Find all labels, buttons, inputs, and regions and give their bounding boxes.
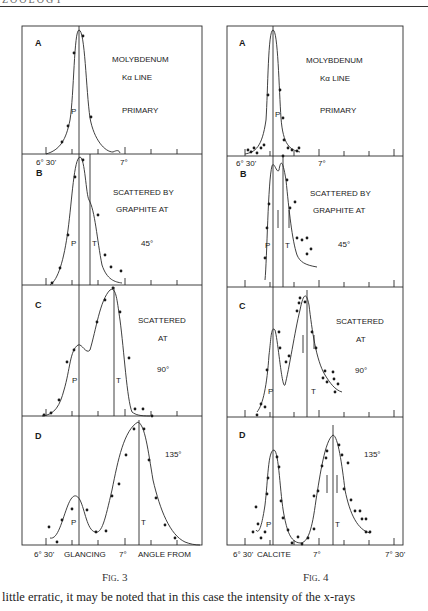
svg-text:7°: 7° xyxy=(120,158,128,167)
svg-text:45°: 45° xyxy=(141,239,153,248)
svg-text:T: T xyxy=(311,387,316,396)
svg-text:T: T xyxy=(116,376,121,385)
svg-text:AT: AT xyxy=(158,334,168,343)
svg-text:SCATTERED: SCATTERED xyxy=(138,316,186,325)
svg-text:6° 30': 6° 30' xyxy=(233,550,254,559)
svg-text:B: B xyxy=(36,168,43,178)
svg-text:ANGLE FROM: ANGLE FROM xyxy=(138,550,191,559)
svg-text:A: A xyxy=(35,38,42,48)
svg-text:T: T xyxy=(285,241,290,250)
svg-text:6° 30': 6° 30' xyxy=(36,158,57,167)
svg-text:MOLYBDENUM: MOLYBDENUM xyxy=(112,55,169,64)
fig3-caption: Fig. 3 xyxy=(102,571,128,583)
svg-text:7°: 7° xyxy=(119,550,127,559)
svg-text:GRAPHITE AT: GRAPHITE AT xyxy=(313,206,365,215)
svg-text:SCATTERED BY: SCATTERED BY xyxy=(310,189,371,198)
svg-text:135°: 135° xyxy=(364,450,381,459)
svg-text:P: P xyxy=(265,241,270,250)
svg-text:CALCITE: CALCITE xyxy=(257,550,291,559)
svg-text:Kα LINE: Kα LINE xyxy=(122,73,152,82)
fig3-curve-a xyxy=(46,30,120,154)
svg-text:45°: 45° xyxy=(338,240,350,249)
svg-text:PRIMARY: PRIMARY xyxy=(122,106,159,115)
fig4-caption: Fig. 4 xyxy=(303,571,329,583)
svg-text:C: C xyxy=(239,301,246,311)
svg-text:7°: 7° xyxy=(313,550,321,559)
svg-text:C: C xyxy=(35,300,42,310)
svg-text:GRAPHITE AT: GRAPHITE AT xyxy=(116,205,168,214)
svg-text:Kα LINE: Kα LINE xyxy=(320,74,350,83)
body-paragraph: little erratic, it may be noted that in … xyxy=(2,590,355,605)
svg-text:P: P xyxy=(275,110,280,119)
svg-text:7°: 7° xyxy=(318,159,326,168)
svg-text:GLANCING: GLANCING xyxy=(64,550,106,559)
svg-text:T: T xyxy=(335,520,340,529)
svg-text:6° 30': 6° 30' xyxy=(34,550,55,559)
svg-text:P: P xyxy=(268,387,273,396)
svg-text:SCATTERED BY: SCATTERED BY xyxy=(113,188,174,197)
figures-canvas: A MOLYBDENUM Kα LINE PRIMARY P 6° 30' 7°… xyxy=(0,0,428,611)
fig3-labels: A MOLYBDENUM Kα LINE PRIMARY P 6° 30' 7°… xyxy=(34,38,191,559)
svg-text:P: P xyxy=(266,520,271,529)
svg-text:T: T xyxy=(92,239,97,248)
svg-text:AT: AT xyxy=(356,335,366,344)
svg-text:P: P xyxy=(71,239,76,248)
svg-text:P: P xyxy=(72,376,77,385)
svg-text:MOLYBDENUM: MOLYBDENUM xyxy=(306,56,363,65)
svg-text:135°: 135° xyxy=(165,450,182,459)
svg-text:P: P xyxy=(71,518,76,527)
fig4-curve-a xyxy=(245,30,300,154)
svg-text:6° 30': 6° 30' xyxy=(236,159,257,168)
svg-text:7° 30': 7° 30' xyxy=(385,550,406,559)
fig3-frame xyxy=(22,26,202,545)
fig4-frame xyxy=(227,26,403,545)
svg-text:T: T xyxy=(141,518,146,527)
svg-text:B: B xyxy=(240,169,247,179)
svg-text:SCATTERED: SCATTERED xyxy=(336,317,384,326)
svg-text:PRIMARY: PRIMARY xyxy=(320,106,357,115)
svg-text:90°: 90° xyxy=(355,366,367,375)
svg-text:A: A xyxy=(239,38,246,48)
svg-text:D: D xyxy=(239,430,246,440)
svg-text:90°: 90° xyxy=(157,365,169,374)
svg-text:P: P xyxy=(71,107,76,116)
fig3-curve-c xyxy=(42,289,150,416)
svg-text:D: D xyxy=(35,431,42,441)
